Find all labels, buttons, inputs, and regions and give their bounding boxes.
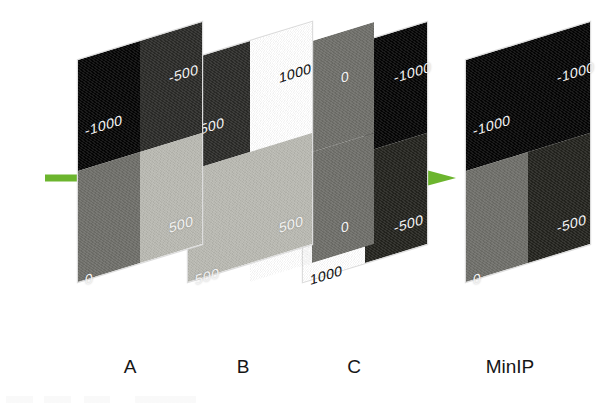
panel-minip: -1000-10000-500 (466, 60, 590, 282)
panel-a-quadrant-tl (78, 41, 140, 171)
panel-minip-quadrant-bl (466, 152, 528, 282)
footer-artifact (6, 396, 196, 403)
panel-a: -1000-5000500 (78, 60, 202, 282)
panel-minip-quadrant-tr (528, 22, 590, 152)
panel-a-quadrant-tr (140, 22, 202, 152)
panel-c-quadrant-tr (365, 22, 427, 152)
panel-b-right-column-value-tr: 0 (341, 68, 349, 86)
panel-a-quadrant-bl (78, 152, 140, 282)
panel-minip-quadrant-tl (466, 41, 528, 171)
figure-canvas: -1000-5000500-5001000500500001000-100010… (0, 0, 606, 410)
caption-b: B (193, 356, 293, 378)
caption-minip: MinIP (460, 356, 560, 378)
panel-b-quadrant-tr (250, 22, 312, 152)
panel-b: -5001000500500 (188, 60, 312, 282)
panel-b-right-column-value-br: 0 (341, 217, 349, 235)
panel-b-right-column-quadrant-br (312, 133, 374, 263)
panel-a-quadrant-br (140, 133, 202, 263)
panel-minip-plane (466, 22, 590, 282)
caption-c: C (304, 356, 404, 378)
panel-a-value-bl: 0 (85, 270, 93, 288)
panel-b-quadrant-br (250, 133, 312, 263)
panel-minip-value-bl: 0 (473, 270, 481, 288)
panel-a-plane (78, 22, 202, 282)
panel-minip-quadrant-br (528, 133, 590, 263)
panel-b-right-column-quadrant-tr (312, 22, 374, 152)
panel-c-quadrant-br (365, 133, 427, 263)
caption-a: A (80, 356, 180, 378)
panel-b-plane (188, 22, 312, 282)
